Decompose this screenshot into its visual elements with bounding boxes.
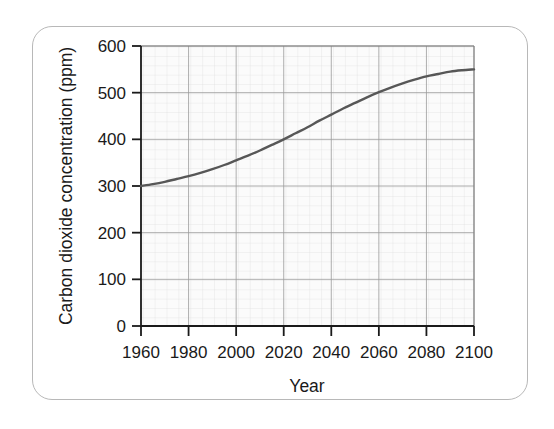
y-axis-label: Carbon dioxide concentration (ppm) <box>56 47 76 325</box>
x-tick-label: 2060 <box>360 343 398 362</box>
y-tick-label: 200 <box>98 224 126 243</box>
y-axis-ticks <box>132 46 141 326</box>
y-tick-label: 100 <box>98 270 126 289</box>
y-tick-label: 300 <box>98 177 126 196</box>
x-tick-label: 2040 <box>312 343 350 362</box>
co2-line-chart: 0100200300400500600 19601980200020202040… <box>0 0 554 429</box>
x-tick-label: 2080 <box>408 343 446 362</box>
y-tick-label: 600 <box>98 37 126 56</box>
figure-root: 0100200300400500600 19601980200020202040… <box>0 0 554 429</box>
x-tick-label: 2100 <box>455 343 493 362</box>
x-axis-label: Year <box>289 376 325 396</box>
y-tick-label: 0 <box>117 317 126 336</box>
x-tick-label: 2000 <box>217 343 255 362</box>
x-tick-label: 2020 <box>265 343 303 362</box>
x-tick-label: 1960 <box>122 343 160 362</box>
y-tick-label: 500 <box>98 84 126 103</box>
x-axis-ticks <box>141 326 474 336</box>
x-axis-tick-labels: 19601980200020202040206020802100 <box>122 343 493 362</box>
y-tick-label: 400 <box>98 130 126 149</box>
y-axis-tick-labels: 0100200300400500600 <box>98 37 126 336</box>
x-tick-label: 1980 <box>170 343 208 362</box>
